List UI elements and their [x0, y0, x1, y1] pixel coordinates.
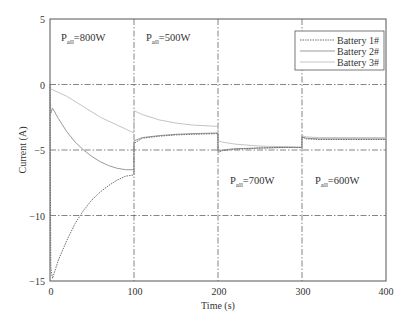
current-vs-time-chart: 5 0 −5 −10 −15 0 100 200 300 400 Time (s… — [0, 0, 407, 323]
xtick-label: 100 — [128, 286, 143, 297]
x-axis: 0 100 200 300 400 — [49, 286, 394, 297]
ytick-label: 5 — [40, 14, 45, 25]
legend-label-battery-1: Battery 1# — [337, 35, 379, 46]
y-axis-title: Current (A) — [17, 127, 29, 174]
legend-label-battery-3: Battery 3# — [337, 57, 379, 68]
xtick-label: 200 — [212, 286, 227, 297]
ytick-label: −15 — [29, 276, 45, 287]
y-axis: 5 0 −5 −10 −15 — [29, 14, 45, 287]
ytick-label: −5 — [34, 145, 45, 156]
x-axis-title: Time (s) — [201, 300, 235, 312]
xtick-label: 0 — [49, 286, 54, 297]
legend-label-battery-2: Battery 2# — [337, 46, 379, 57]
ytick-label: 0 — [40, 80, 45, 91]
xtick-label: 300 — [296, 286, 311, 297]
ytick-label: −10 — [29, 211, 45, 222]
legend: Battery 1# Battery 2# Battery 3# — [295, 31, 384, 70]
xtick-label: 400 — [379, 286, 394, 297]
